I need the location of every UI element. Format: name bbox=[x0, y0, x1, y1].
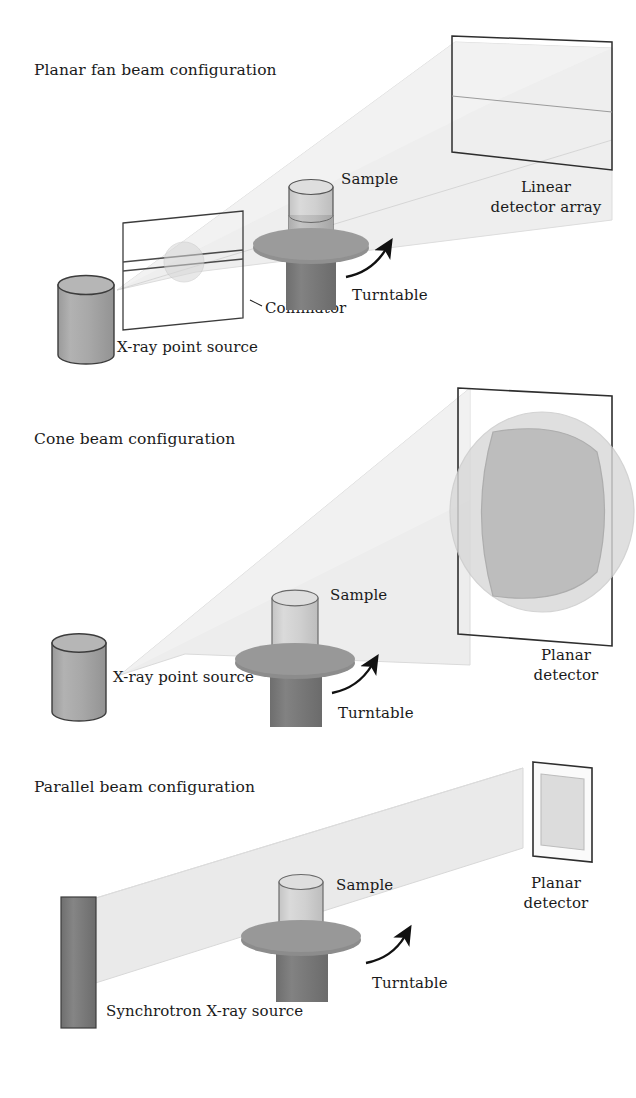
linear-detector-array-label-line1: Linear bbox=[521, 178, 572, 196]
synchrotron-xray-source-bar bbox=[61, 897, 96, 1028]
planar-detector-label-line2: detector bbox=[534, 666, 600, 684]
planar-detector-plate bbox=[533, 762, 592, 862]
xray-point-source-label: X-ray point source bbox=[117, 338, 258, 356]
planar-detector-label-line2: detector bbox=[524, 894, 590, 912]
turntable-label: Turntable bbox=[352, 286, 428, 304]
turntable-label: Turntable bbox=[338, 704, 414, 722]
synchrotron-xray-source-label: Synchrotron X-ray source bbox=[106, 1002, 303, 1020]
planar-detector-label-line1: Planar bbox=[541, 646, 592, 664]
turntable-label: Turntable bbox=[372, 974, 448, 992]
beam-spot-circle bbox=[164, 242, 204, 282]
xray-point-source-cylinder bbox=[52, 634, 106, 721]
xray-ct-configurations-figure: Planar fan beam configuration Linear det… bbox=[0, 0, 636, 1098]
xray-point-source-cylinder bbox=[58, 276, 114, 365]
planar-detector-label-line1: Planar bbox=[531, 874, 582, 892]
xray-point-source-label: X-ray point source bbox=[113, 668, 254, 686]
detector-active-area bbox=[541, 774, 584, 850]
sample-label: Sample bbox=[341, 170, 398, 188]
beam-projection bbox=[450, 412, 634, 612]
panel-title-planar-fan-beam: Planar fan beam configuration bbox=[34, 61, 277, 79]
sample-label: Sample bbox=[330, 586, 387, 604]
sample-label: Sample bbox=[336, 876, 393, 894]
panel-title-parallel-beam: Parallel beam configuration bbox=[34, 778, 255, 796]
panel-title-cone-beam: Cone beam configuration bbox=[34, 430, 235, 448]
linear-detector-array-label-line2: detector array bbox=[491, 198, 602, 216]
sample-projection-shadow bbox=[482, 429, 605, 599]
